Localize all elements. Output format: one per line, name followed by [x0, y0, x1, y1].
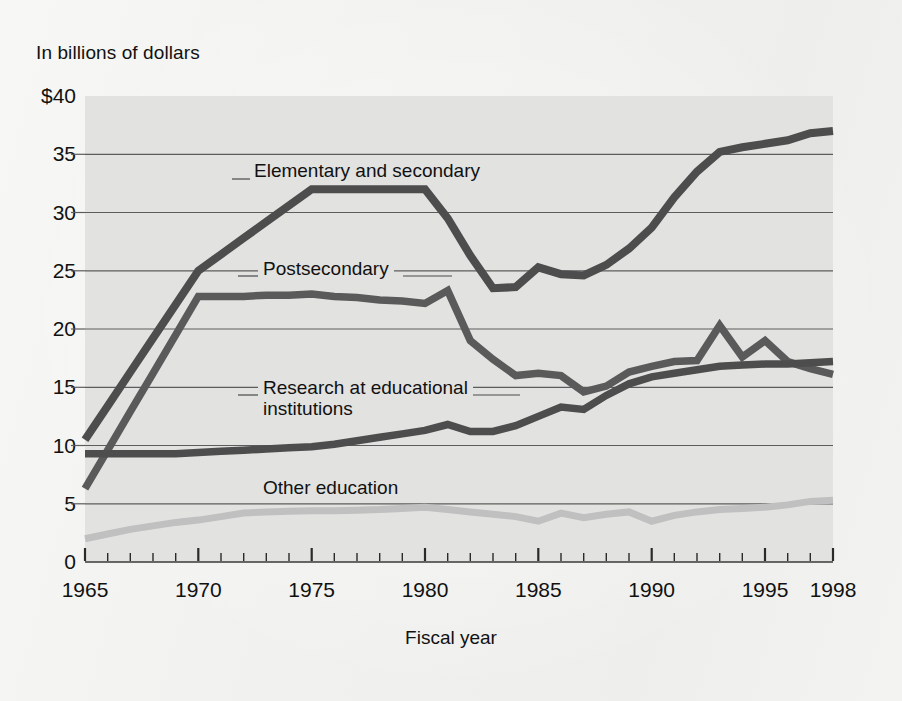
x-tick-label-1965: 1965: [62, 578, 109, 602]
x-tick-label-1975: 1975: [288, 578, 335, 602]
x-tick-label-1970: 1970: [175, 578, 222, 602]
x-tick-label-1998: 1998: [810, 578, 857, 602]
x-axis-title: Fiscal year: [0, 627, 902, 649]
series-label-postsecondary: Postsecondary: [258, 258, 394, 279]
x-axis-tick-labels: 19651970197519801985199019951998: [0, 578, 902, 608]
x-tick-label-1985: 1985: [515, 578, 562, 602]
series-label-other-education: Other education: [258, 477, 403, 498]
x-tick-label-1990: 1990: [628, 578, 675, 602]
chart-figure: In billions of dollars $4035302520151050…: [0, 0, 902, 701]
series-label-elementary-and-secondary: Elementary and secondary: [254, 160, 480, 181]
x-tick-label-1980: 1980: [402, 578, 449, 602]
x-tick-label-1995: 1995: [742, 578, 789, 602]
series-label-research-at-educational-institutions: Research at educational institutions: [258, 377, 473, 420]
series-line-other-education: [85, 500, 833, 538]
